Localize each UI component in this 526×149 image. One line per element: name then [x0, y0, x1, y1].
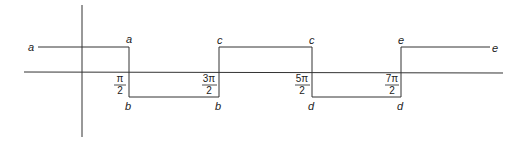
svg-text:π: π [117, 73, 124, 84]
label-e-left: e [398, 34, 404, 46]
label-d-right: d [397, 100, 404, 112]
label-b-right: b [215, 100, 221, 112]
label-c-left: c [217, 34, 223, 46]
label-c-right: c [309, 34, 315, 46]
svg-text:5π: 5π [296, 73, 309, 84]
step-function-diagram: a a b b c c d d e e π 2 3π 2 5π 2 7π 2 [0, 0, 526, 149]
svg-text:2: 2 [206, 85, 212, 96]
tick-label-5pi-over-2: 5π 2 [295, 73, 310, 96]
svg-text:2: 2 [117, 85, 123, 96]
label-a-left: a [28, 41, 34, 53]
label-e-right: e [492, 42, 498, 54]
tick-label-pi-over-2: π 2 [114, 73, 126, 96]
tick-label-3pi-over-2: 3π 2 [202, 73, 217, 96]
svg-text:2: 2 [389, 85, 395, 96]
svg-text:2: 2 [299, 85, 305, 96]
label-a-top: a [126, 33, 132, 45]
x-axis [24, 72, 503, 73]
tick-label-7pi-over-2: 7π 2 [385, 73, 399, 96]
svg-text:3π: 3π [203, 73, 216, 84]
label-d-left: d [308, 100, 315, 112]
label-b-left: b [125, 100, 131, 112]
svg-text:7π: 7π [386, 73, 399, 84]
